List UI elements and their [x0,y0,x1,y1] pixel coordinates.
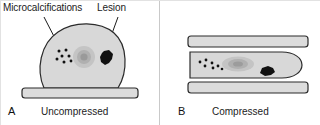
mammography-compression-figure: Microcalcifications Lesion [0,0,320,125]
panel-caption-b: Compressed [212,106,269,117]
nodule-core-b [233,61,243,66]
compression-plate-lower-b [188,82,308,93]
compression-plate-lower-a [22,88,138,98]
panel-divider [159,0,160,125]
panel-letter-a: A [8,105,15,117]
panel-letter-b: B [178,105,185,117]
nodule-core [80,53,87,60]
panel-compressed: B Compressed [160,0,320,125]
panel-uncompressed: Microcalcifications Lesion [0,0,160,125]
compression-plate-upper-b [188,36,308,47]
panel-caption-a: Uncompressed [41,106,108,117]
